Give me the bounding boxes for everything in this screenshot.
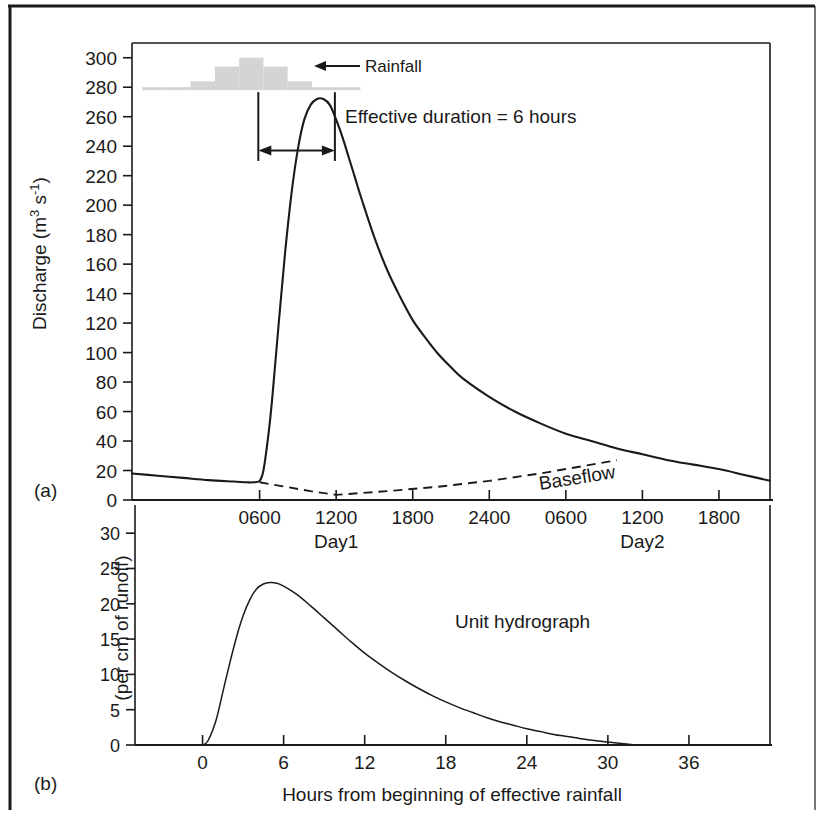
- figure-canvas: 0204060801001201401601802002202402602803…: [0, 0, 820, 813]
- rainfall-bar: [336, 87, 360, 90]
- panel-a: 0204060801001201401601802002202402602803…: [27, 43, 773, 552]
- panel-a-y-tick-label: 60: [96, 402, 117, 423]
- panel-b-x-tick-label: 12: [354, 752, 375, 773]
- baseflow-label: Baseflow: [537, 461, 617, 494]
- rainfall-bar: [166, 87, 190, 90]
- rainfall-bar: [263, 67, 287, 91]
- rainfall-histogram: [142, 58, 360, 90]
- panel-b-letter: (b): [34, 773, 57, 794]
- panel-b-x-tick-label: 36: [678, 752, 699, 773]
- panel-a-day-labels: Day1Day2: [314, 531, 665, 552]
- panel-a-y-tick-label: 200: [85, 195, 117, 216]
- hydrograph-figure: 0204060801001201401601802002202402602803…: [0, 0, 820, 813]
- panel-a-y-tick-label: 120: [85, 313, 117, 334]
- panel-a-x-ticks: 0600120018002400060012001800: [238, 490, 740, 528]
- rainfall-bar: [215, 67, 239, 91]
- panel-a-y-tick-label: 280: [85, 77, 117, 98]
- panel-b-y-axis-title: (per cm of runoff): [111, 555, 132, 700]
- panel-a-y-tick-label: 140: [85, 284, 117, 305]
- panel-a-x-tick-label: 2400: [468, 507, 510, 528]
- panel-a-y-ticks: 0204060801001201401601802002202402602803…: [85, 48, 132, 511]
- panel-a-x-tick-label: 1200: [621, 507, 663, 528]
- rainfall-bar: [142, 87, 166, 90]
- effective-duration-label: Effective duration = 6 hours: [345, 106, 577, 127]
- panel-b-y-tick-label: 5: [110, 701, 120, 721]
- panel-a-y-tick-label: 40: [96, 431, 117, 452]
- storm-hydrograph-curve: [132, 98, 770, 482]
- panel-a-y-tick-label: 180: [85, 225, 117, 246]
- panel-a-y-tick-label: 20: [96, 461, 117, 482]
- panel-a-y-tick-label: 240: [85, 136, 117, 157]
- panel-a-x-tick-label: 1800: [392, 507, 434, 528]
- duration-arrow-head-left: [258, 146, 271, 156]
- panel-a-y-tick-label: 80: [96, 372, 117, 393]
- unit-hydrograph-curve: [203, 583, 635, 745]
- panel-a-x-tick-label: 1800: [698, 507, 740, 528]
- rainfall-bar: [312, 87, 336, 90]
- panel-a-x-tick-label: 0600: [545, 507, 587, 528]
- panel-b-x-axis-title: Hours from beginning of effective rainfa…: [282, 784, 622, 805]
- panel-b-x-ticks: 061218243036: [197, 735, 699, 773]
- panel-a-day-label: Day1: [314, 531, 358, 552]
- panel-b-x-tick-label: 24: [516, 752, 538, 773]
- panel-a-y-tick-label: 100: [85, 343, 117, 364]
- rainfall-bar: [191, 81, 215, 90]
- panel-a-y-tick-label: 0: [106, 490, 117, 511]
- panel-a-y-axis-title: Discharge (m3 s-1): [27, 177, 50, 330]
- rainfall-label: Rainfall: [365, 57, 422, 76]
- panel-a-y-tick-label: 300: [85, 48, 117, 69]
- panel-a-y-tick-label: 160: [85, 254, 117, 275]
- panel-a-y-tick-label: 220: [85, 166, 117, 187]
- rainfall-bar: [288, 81, 312, 90]
- panel-b-x-tick-label: 18: [435, 752, 456, 773]
- panel-a-x-tick-label: 0600: [238, 507, 280, 528]
- panel-b-frame: [135, 505, 772, 745]
- unit-hydrograph-label: Unit hydrograph: [455, 611, 590, 632]
- panel-a-day-label: Day2: [620, 531, 664, 552]
- panel-a-x-tick-label: 1200: [315, 507, 357, 528]
- panel-b-x-tick-label: 6: [278, 752, 289, 773]
- panel-b-x-tick-label: 0: [197, 752, 208, 773]
- panel-b-x-tick-label: 30: [597, 752, 618, 773]
- panel-b-y-tick-label: 0: [110, 736, 120, 756]
- panel-a-y-tick-label: 260: [85, 107, 117, 128]
- panel-a-letter: (a): [34, 480, 57, 501]
- rainfall-bar: [239, 58, 263, 90]
- duration-arrow-head-right: [322, 146, 335, 156]
- panel-b-y-tick-label: 30: [100, 524, 120, 544]
- rainfall-annotation: Rainfall: [314, 57, 422, 76]
